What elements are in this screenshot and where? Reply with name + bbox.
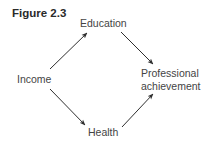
arrow-education-to-professional [121,32,153,64]
arrow-income-to-health [50,89,85,125]
diagram-edges [0,0,210,149]
arrow-health-to-professional [122,94,153,127]
arrow-income-to-education [50,33,87,69]
